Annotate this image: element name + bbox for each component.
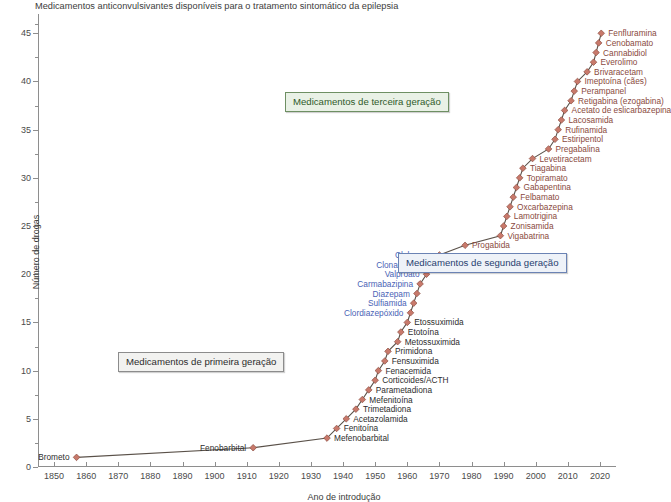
x-tick-label: 1870 — [108, 471, 128, 481]
data-point-marker[interactable] — [250, 444, 257, 451]
data-point-label: Cannabidiol — [603, 48, 647, 56]
data-point-label: Metossuximida — [405, 338, 460, 346]
data-point-label: Lacosamida — [568, 116, 613, 124]
x-tick-label: 1880 — [140, 471, 160, 481]
data-point-label: Carmabazipina — [357, 280, 413, 288]
x-tick-label: 1850 — [44, 471, 64, 481]
y-tick-label: 30 — [21, 173, 31, 183]
data-point-label: Diazepam — [373, 289, 410, 297]
x-tick-label: 1900 — [205, 471, 225, 481]
data-point-label: Topiramato — [527, 174, 568, 182]
data-point-marker[interactable] — [375, 367, 382, 374]
data-point-label: Primidona — [395, 347, 432, 355]
data-point-label: Corticoides/ACTH — [382, 376, 448, 384]
data-point-label: Retigabina (ezogabina) — [578, 97, 664, 105]
data-point-label: Pregabalina — [556, 145, 600, 153]
y-tick-label: 45 — [21, 28, 31, 38]
data-point-marker[interactable] — [372, 377, 379, 384]
data-point-label: Etossuximida — [414, 318, 463, 326]
data-point-marker[interactable] — [513, 184, 520, 191]
data-point-marker[interactable] — [571, 88, 578, 95]
data-point-label: Oxcarbazepina — [517, 203, 573, 211]
data-point-marker[interactable] — [407, 309, 414, 316]
data-point-label: Sulfiamida — [368, 299, 407, 307]
data-point-marker[interactable] — [568, 97, 575, 104]
data-point-marker[interactable] — [507, 203, 514, 210]
x-tick-label: 1960 — [397, 471, 417, 481]
data-point-label: Levetiracetam — [540, 154, 592, 162]
data-point-marker[interactable] — [410, 300, 417, 307]
data-point-marker[interactable] — [398, 329, 405, 336]
data-point-marker[interactable] — [365, 387, 372, 394]
x-tick-label: 1940 — [333, 471, 353, 481]
data-point-label: Lamotrigina — [514, 212, 557, 220]
data-point-marker[interactable] — [510, 194, 517, 201]
data-point-marker[interactable] — [590, 59, 597, 66]
data-point-marker[interactable] — [558, 117, 565, 124]
data-point-marker[interactable] — [504, 213, 511, 220]
data-point-marker[interactable] — [500, 223, 507, 230]
x-tick-label: 1920 — [269, 471, 289, 481]
data-point-marker[interactable] — [497, 232, 504, 239]
data-point-marker[interactable] — [516, 175, 523, 182]
data-point-label: Vigabatrina — [507, 232, 549, 240]
data-point-marker[interactable] — [561, 107, 568, 114]
data-point-label: Imeptoína (cães) — [584, 77, 646, 85]
x-tick-label: 1930 — [301, 471, 321, 481]
chart-title: Medicamentos anticonvulsivantes disponív… — [35, 1, 398, 11]
x-tick-label: 1910 — [237, 471, 257, 481]
y-tick-label: 10 — [21, 366, 31, 376]
generation-annotation-box: Medicamentos de terceira geração — [285, 92, 449, 112]
data-point-marker[interactable] — [417, 281, 424, 288]
data-point-marker[interactable] — [595, 40, 602, 47]
data-point-label: Brometo — [38, 453, 69, 461]
plot-area: 051015202530354045 185018601870188018901… — [38, 14, 616, 467]
data-point-label: Clordiazepóxido — [344, 309, 404, 317]
data-point-label: Parametadiona — [376, 386, 432, 394]
y-tick-label: 25 — [21, 221, 31, 231]
y-axis-title: Número de drogas — [31, 215, 41, 290]
generation-annotation-box: Medicamentos de primeira geração — [118, 352, 284, 372]
data-point-label: Etotoína — [408, 328, 439, 336]
data-point-label: Brivaracetam — [594, 68, 643, 76]
data-point-label: Tiagabina — [530, 164, 566, 172]
data-point-label: Everolimo — [601, 58, 638, 66]
x-tick-label: 1890 — [172, 471, 192, 481]
data-point-label: Perampanel — [581, 87, 626, 95]
generation-annotation-box: Medicamentos de segunda geração — [398, 253, 567, 273]
x-tick-label: 1990 — [494, 471, 514, 481]
data-point-label: Fenitoína — [344, 424, 379, 432]
data-point-marker[interactable] — [552, 136, 559, 143]
data-point-label: Acetazolamida — [353, 415, 407, 423]
data-point-marker[interactable] — [359, 396, 366, 403]
data-point-label: Trimetadiona — [363, 405, 411, 413]
data-point-label: Fenacemida — [385, 366, 431, 374]
y-tick-label: 20 — [21, 269, 31, 279]
data-point-marker[interactable] — [414, 290, 421, 297]
x-tick-label: 2020 — [590, 471, 610, 481]
data-point-marker[interactable] — [555, 126, 562, 133]
data-point-marker[interactable] — [593, 49, 600, 56]
data-point-label: Acetato de eslicarbazepina — [572, 106, 671, 114]
y-tick-label: 15 — [21, 317, 31, 327]
data-point-label: Rufinamida — [565, 126, 607, 134]
data-point-marker[interactable] — [598, 30, 605, 37]
data-point-label: Progabida — [472, 241, 510, 249]
data-point-marker[interactable] — [545, 146, 552, 153]
data-point-label: Felbamato — [520, 193, 559, 201]
y-tick-label: 5 — [26, 414, 31, 424]
data-point-label: Zonisamida — [511, 222, 554, 230]
x-tick-label: 2000 — [526, 471, 546, 481]
x-tick-label: 2010 — [558, 471, 578, 481]
data-point-marker[interactable] — [462, 242, 469, 249]
data-point-label: Gabapentina — [523, 183, 571, 191]
data-point-marker[interactable] — [404, 319, 411, 326]
data-point-label: Fensuximida — [392, 357, 439, 365]
data-point-label: Fenfluramina — [608, 29, 656, 37]
data-point-marker[interactable] — [382, 358, 389, 365]
data-point-label: Fenobarbital — [200, 444, 246, 452]
x-tick-label: 1980 — [461, 471, 481, 481]
x-tick-label: 1950 — [365, 471, 385, 481]
y-tick-major — [33, 467, 38, 468]
data-point-marker[interactable] — [73, 454, 80, 461]
